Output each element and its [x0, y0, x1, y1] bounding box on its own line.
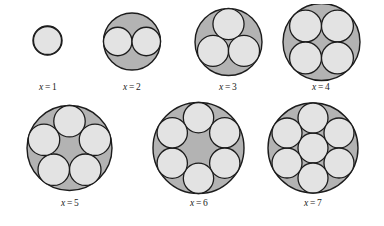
packing-label-7: x=7 — [265, 198, 361, 208]
inner-circle-4 — [324, 148, 354, 178]
label-variable: x — [190, 198, 194, 208]
circle-packing-figure: x=1x=2x=3x=4x=5x=6x=7 — [0, 0, 384, 226]
packing-cell-1: x=1 — [8, 4, 88, 104]
label-equals-sign: = — [310, 198, 316, 208]
packing-cell-6: x=6 — [150, 100, 248, 220]
label-equals-sign: = — [45, 82, 51, 92]
inner-circle-6 — [272, 148, 302, 178]
label-value: 7 — [317, 198, 322, 208]
inner-circle-3 — [324, 118, 354, 148]
inner-circle-4 — [38, 154, 69, 185]
inner-circle-1 — [104, 27, 133, 56]
packing-label-5: x=5 — [22, 198, 118, 208]
label-variable: x — [312, 82, 316, 92]
label-equals-sign: = — [196, 198, 202, 208]
inner-circle-3 — [210, 148, 240, 178]
label-variable: x — [61, 198, 65, 208]
inner-circle-1 — [213, 9, 244, 40]
packing-cell-2: x=2 — [92, 4, 172, 104]
label-equals-sign: = — [129, 82, 135, 92]
inner-circle-1 — [298, 133, 328, 163]
packing-label-3: x=3 — [188, 82, 268, 92]
packing-label-1: x=1 — [8, 82, 88, 92]
label-equals-sign: = — [225, 82, 231, 92]
inner-circle-6 — [157, 118, 187, 148]
packing-label-2: x=2 — [92, 82, 172, 92]
packing-cell-5: x=5 — [22, 102, 118, 220]
label-variable: x — [219, 82, 223, 92]
inner-circle-1 — [183, 103, 213, 133]
inner-circle-1 — [34, 27, 62, 55]
packing-cell-3: x=3 — [188, 4, 268, 104]
label-value: 3 — [232, 82, 237, 92]
label-value: 6 — [203, 198, 208, 208]
label-value: 5 — [74, 198, 79, 208]
label-variable: x — [39, 82, 43, 92]
inner-circle-1 — [290, 10, 322, 42]
inner-circle-2 — [210, 118, 240, 148]
inner-circle-3 — [290, 42, 322, 74]
inner-circle-2 — [132, 27, 161, 56]
label-value: 1 — [52, 82, 57, 92]
inner-circle-5 — [157, 148, 187, 178]
inner-circle-2 — [197, 35, 228, 66]
packing-cell-7: x=7 — [265, 100, 361, 220]
inner-circle-4 — [322, 42, 354, 74]
packing-cell-4: x=4 — [278, 4, 364, 104]
label-equals-sign: = — [67, 198, 73, 208]
packing-label-6: x=6 — [150, 198, 248, 208]
inner-circle-2 — [298, 103, 328, 133]
inner-circle-7 — [272, 118, 302, 148]
packing-label-4: x=4 — [278, 82, 364, 92]
label-variable: x — [304, 198, 308, 208]
label-variable: x — [123, 82, 127, 92]
inner-circle-5 — [298, 163, 328, 193]
label-value: 4 — [325, 82, 330, 92]
label-value: 2 — [136, 82, 141, 92]
inner-circle-2 — [79, 124, 110, 155]
inner-circle-5 — [28, 124, 59, 155]
label-equals-sign: = — [318, 82, 324, 92]
inner-circle-4 — [183, 163, 213, 193]
inner-circle-3 — [70, 154, 101, 185]
inner-circle-3 — [228, 35, 259, 66]
inner-circle-2 — [322, 10, 354, 42]
